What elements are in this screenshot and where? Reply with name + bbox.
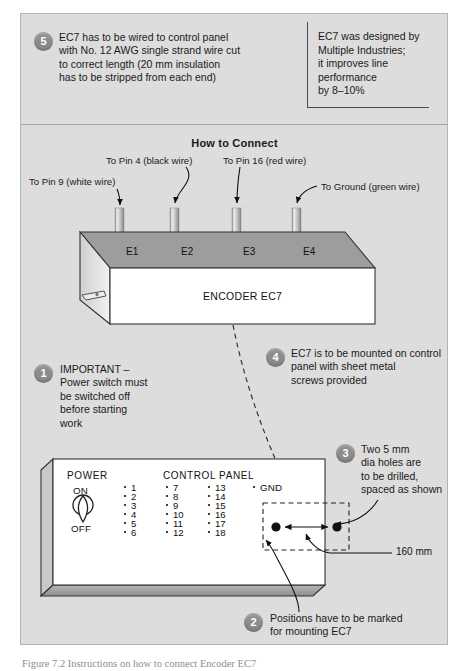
step-3-line-1: Two 5 mm: [361, 443, 451, 456]
encoder-top-face: [80, 232, 375, 268]
step-4-line-2: panel with sheet metal: [291, 360, 443, 373]
step-1-line-2: Power switch must: [60, 376, 180, 389]
terminal-label-e1: E1: [126, 246, 138, 257]
leader-pin4: [175, 167, 189, 203]
encoder-title: ENCODER EC7: [203, 290, 282, 302]
step-4-line-3: screws provided: [291, 374, 443, 387]
figure-caption: Figure 7.2 Instructions on how to connec…: [22, 658, 422, 671]
drill-hole-left: [271, 522, 280, 531]
panel-left-face: [41, 459, 53, 596]
leader-ground: [297, 186, 317, 203]
gnd-dot: [253, 486, 255, 488]
hole-spacing-label: 160 mm: [396, 546, 432, 557]
step-note-4: EC7 is to be mounted on control panel wi…: [291, 347, 443, 387]
step-1-line-1: IMPORTANT –: [60, 363, 180, 376]
control-panel-title: CONTROL PANEL: [163, 470, 254, 481]
panel-bottom-edge: [41, 585, 325, 596]
diagram-artwork: [0, 0, 469, 671]
leader-pin16: [237, 167, 240, 203]
step-2-line-2: for mounting EC7: [270, 625, 440, 638]
step-1-line-5: work: [60, 417, 180, 430]
figure-stage: 5 EC7 has to be wired to control panel w…: [0, 0, 469, 671]
step-3-line-4: spaced as shown: [361, 483, 451, 496]
step-badge-2: 2: [244, 613, 263, 632]
step-badge-4: 4: [266, 348, 285, 367]
leader-step3: [335, 500, 378, 524]
step-3-line-2: dia holes are: [361, 456, 451, 469]
step-4-line-1: EC7 is to be mounted on control: [291, 347, 443, 360]
pin-label-6: 6: [131, 527, 136, 538]
encoder-body: [80, 232, 375, 324]
switch-off-label: OFF: [71, 523, 91, 534]
terminal-label-e4: E4: [303, 246, 315, 257]
pin-label-12: 12: [173, 527, 184, 538]
terminal-label-e3: E3: [243, 246, 255, 257]
step-1-line-4: before starting: [60, 403, 180, 416]
gnd-label: GND: [260, 482, 282, 493]
step-note-2: Positions have to be marked for mounting…: [270, 612, 440, 639]
step-note-3: Two 5 mm dia holes are to be drilled, sp…: [361, 443, 451, 497]
step-2-line-1: Positions have to be marked: [270, 612, 440, 625]
leader-pin9: [117, 189, 120, 205]
step-3-line-3: to be drilled,: [361, 470, 451, 483]
step-badge-3: 3: [336, 444, 355, 463]
step-1-line-3: be switched off: [60, 390, 180, 403]
terminal-label-e2: E2: [181, 246, 193, 257]
step-note-1: IMPORTANT – Power switch must be switche…: [60, 363, 180, 430]
flange-screw-hole: [96, 293, 99, 296]
step-badge-1: 1: [34, 364, 53, 383]
pin-label-18: 18: [215, 527, 226, 538]
switch-on-label: ON: [73, 485, 88, 496]
power-label: POWER: [67, 470, 108, 481]
